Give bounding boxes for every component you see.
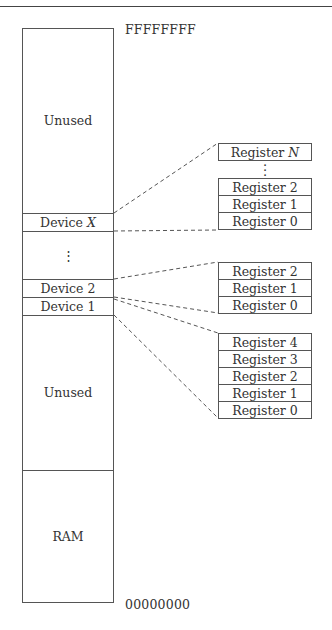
connector-line — [114, 262, 218, 279]
connector-line — [114, 143, 218, 213]
connector-line — [114, 297, 218, 313]
connector-line — [114, 315, 218, 418]
connector-line — [114, 230, 218, 231]
connector-line — [114, 299, 218, 333]
connector-lines — [0, 0, 332, 630]
